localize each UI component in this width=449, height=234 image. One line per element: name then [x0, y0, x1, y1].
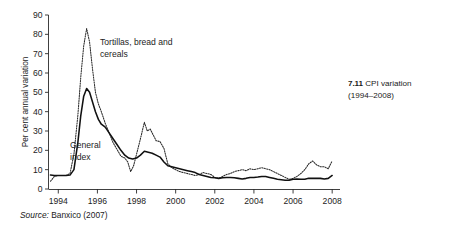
y-tick-label: 60	[33, 68, 43, 78]
y-tick-label: 30	[33, 126, 43, 136]
annotation-tortillas-line1: Tortillas, bread and	[100, 37, 173, 47]
y-tick-label: 0	[38, 184, 43, 194]
x-tick-label: 2002	[205, 196, 224, 206]
x-tick-label: 1998	[127, 196, 146, 206]
annotation-tortillas-line2: cereals	[100, 49, 128, 59]
source-note: Source: Banxico (2007)	[20, 210, 108, 220]
source-text: Banxico (2007)	[51, 210, 107, 220]
y-tick-label: 40	[33, 107, 43, 117]
y-tick-label: 90	[33, 10, 43, 20]
figure-year-range: (1994–2008)	[348, 90, 444, 102]
x-tick-label: 2008	[323, 196, 342, 206]
figure-caption: 7.11 CPI variation (1994–2008)	[348, 78, 444, 101]
y-axis-tick-labels: 0102030405060708090	[33, 10, 43, 194]
annotation-general-index-line2: index	[70, 152, 91, 162]
x-tick-label: 2006	[283, 196, 302, 206]
x-tick-label: 2004	[244, 196, 263, 206]
y-tick-label: 50	[33, 87, 43, 97]
x-tick-label: 1994	[49, 196, 68, 206]
x-tick-label: 1996	[88, 196, 107, 206]
y-tick-label: 20	[33, 145, 43, 155]
y-tick-label: 80	[33, 29, 43, 39]
x-axis: 19941996199820002002200420062008	[49, 189, 342, 206]
cpi-variation-chart: 0102030405060708090 19941996199820002002…	[0, 0, 449, 234]
source-prefix: Source:	[20, 210, 49, 220]
y-axis-title: Per cent annual variation	[21, 56, 30, 147]
y-tick-label: 10	[33, 165, 43, 175]
x-axis-tick-labels: 19941996199820002002200420062008	[49, 196, 342, 206]
x-tick-label: 2000	[166, 196, 185, 206]
figure-title: CPI variation	[365, 79, 411, 88]
y-axis-ticks	[45, 15, 49, 189]
annotation-tortillas: Tortillas, bread and cereals	[100, 37, 173, 59]
annotation-general-index-line1: General	[70, 140, 101, 150]
series-line-general-index	[50, 88, 332, 180]
y-tick-label: 70	[33, 49, 43, 59]
figure-number: 7.11	[348, 79, 363, 88]
y-axis: 0102030405060708090	[33, 10, 49, 194]
figure-container: 0102030405060708090 19941996199820002002…	[0, 0, 449, 234]
